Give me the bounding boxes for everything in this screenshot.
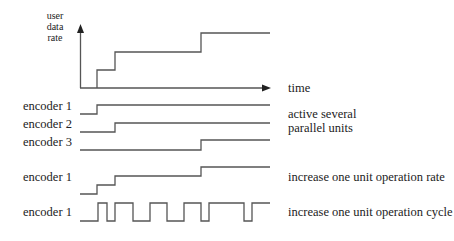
x-axis-label: time bbox=[288, 82, 310, 95]
encoder-3-parallel-label: encoder 3 bbox=[23, 136, 72, 149]
y-axis-label-line-2: data bbox=[40, 21, 70, 32]
y-axis-label: user data rate bbox=[40, 10, 70, 43]
encoder-1-rate-label: encoder 1 bbox=[23, 171, 72, 184]
encoder-1-cycle-label: encoder 1 bbox=[23, 206, 72, 219]
operation-rate-description: increase one unit operation rate bbox=[288, 171, 445, 184]
y-axis-arrow-icon bbox=[77, 24, 84, 33]
y-axis-label-line-1: user bbox=[40, 10, 70, 21]
encoder-1-parallel-signal bbox=[80, 105, 270, 114]
parallel-description-line-1: active several bbox=[288, 107, 356, 121]
encoder-2-parallel-signal bbox=[80, 123, 270, 132]
x-axis-arrow-icon bbox=[262, 85, 271, 92]
encoder-1-parallel-label: encoder 1 bbox=[23, 100, 72, 113]
user-data-rate-curve bbox=[97, 33, 270, 88]
encoder-2-parallel-label: encoder 2 bbox=[23, 118, 72, 131]
parallel-units-description: active several parallel units bbox=[288, 107, 356, 135]
encoder-3-parallel-signal bbox=[80, 140, 270, 150]
y-axis-label-line-3: rate bbox=[40, 32, 70, 43]
encoder-1-cycle-signal bbox=[80, 203, 270, 221]
parallel-description-line-2: parallel units bbox=[288, 121, 356, 135]
encoder-1-rate-signal bbox=[80, 167, 270, 194]
operation-cycle-description: increase one unit operation cycle bbox=[288, 206, 453, 219]
